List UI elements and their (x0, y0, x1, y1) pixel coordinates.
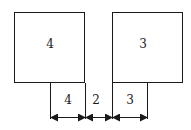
dimension-label-3: 3 (126, 93, 134, 107)
right-box: 3 (113, 13, 183, 83)
dimension-label-2: 2 (92, 93, 100, 107)
left-box: 4 (15, 13, 85, 83)
diagram-canvas: 4 3 4 2 3 (0, 0, 191, 130)
left-box-label: 4 (46, 37, 54, 51)
dimension-label-1: 4 (64, 93, 72, 107)
right-box-label: 3 (139, 37, 147, 51)
